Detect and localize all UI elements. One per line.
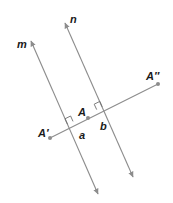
label-a: A xyxy=(77,106,86,118)
reflection-diagram: m n A″ A A′ a b xyxy=(0,0,173,203)
point-a-prime xyxy=(48,136,52,140)
label-n: n xyxy=(70,13,77,25)
line-n xyxy=(65,23,133,177)
label-a-prime: A′ xyxy=(37,127,50,139)
point-a xyxy=(86,116,90,120)
label-intersection-a: a xyxy=(79,129,85,141)
label-intersection-b: b xyxy=(100,120,107,132)
point-a-double-prime xyxy=(156,82,160,86)
label-m: m xyxy=(17,38,27,50)
label-a-double-prime: A″ xyxy=(145,70,160,82)
